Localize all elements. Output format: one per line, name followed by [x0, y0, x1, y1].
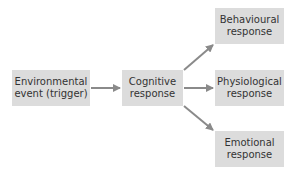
node-physiological-response: Physiological response: [215, 70, 284, 106]
node-label-line2: event (trigger): [14, 88, 87, 100]
node-behavioural-response: Behavioural response: [215, 8, 284, 44]
arrow-cognitive-to-behavioural: [184, 45, 213, 70]
node-label-line1: Behavioural: [220, 14, 280, 26]
node-cognitive-response: Cognitive response: [122, 70, 183, 106]
node-label-line2: response: [217, 88, 282, 100]
node-emotional-response: Emotional response: [215, 131, 284, 167]
node-label-line1: Emotional: [224, 137, 274, 149]
node-label-line2: response: [224, 149, 274, 161]
node-environmental-event: Environmental event (trigger): [12, 70, 90, 106]
arrow-cognitive-to-emotional: [184, 106, 213, 130]
node-label-line1: Environmental: [14, 76, 87, 88]
node-label-line1: Cognitive: [129, 76, 176, 88]
node-label-line2: response: [220, 26, 280, 38]
node-label-line2: response: [129, 88, 176, 100]
node-label-line1: Physiological: [217, 76, 282, 88]
